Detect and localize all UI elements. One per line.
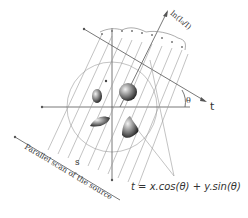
object-blob-left: [92, 89, 102, 103]
x-axis-end-dot: [41, 106, 43, 108]
formula-pointer-1: [150, 60, 174, 176]
y-axis-end-dot: [111, 179, 113, 181]
projection-axis-label: ln(I₀/I): [169, 9, 194, 32]
s-label: s: [75, 157, 80, 167]
object-dot: [105, 80, 107, 82]
object-blob-top: [119, 83, 137, 101]
theta-label: θ: [186, 96, 191, 105]
t-axis-arrow-icon: [200, 97, 207, 102]
projection-axis-arrow-icon: [163, 10, 168, 17]
radon-projection-diagram: ln(I₀/I) t θ s Parallel scan of the sour…: [0, 0, 248, 218]
source-scan-label: Parallel scan of the source: [23, 142, 114, 202]
object-blob-bottom-left: [90, 117, 110, 127]
theta-arc: [182, 90, 185, 107]
source-scan-end-dot: [14, 136, 16, 138]
formula-label: t = x.cos(θ) + y.sin(θ): [131, 181, 241, 192]
t-axis: [84, 29, 205, 101]
profile-arrowheads: [101, 30, 183, 48]
phantom-objects: [90, 80, 138, 138]
t-axis-start-dot: [83, 28, 85, 30]
parallel-rays: [48, 34, 188, 186]
t-axis-label: t: [210, 100, 215, 113]
